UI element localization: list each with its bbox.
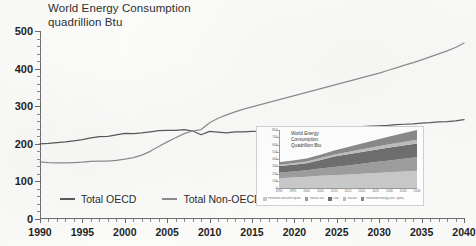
x-tick-minor (286, 219, 287, 222)
x-tick-minor (396, 219, 397, 222)
x-axis-label: 1995 (71, 226, 94, 238)
x-axis-label: 2000 (113, 226, 136, 238)
legend-item[interactable]: Total Non-OECD (162, 193, 261, 205)
x-tick-minor (362, 219, 363, 222)
x-tick-minor (57, 219, 58, 222)
x-tick-minor (413, 219, 414, 222)
chart-legend: Total OECDTotal Non-OECD (60, 193, 262, 205)
y-axis-label: 100 (15, 175, 33, 187)
inset-x-label: 2005 (317, 189, 324, 193)
inset-y-label: 600 (272, 143, 277, 147)
inset-x-label: 2025 (372, 189, 379, 193)
x-tick-minor (142, 219, 143, 222)
x-tick-minor (447, 219, 448, 222)
x-tick-minor (456, 219, 457, 222)
x-tick-minor (74, 219, 75, 222)
x-tick-minor (116, 219, 117, 222)
x-tick-minor (320, 219, 321, 222)
y-axis-label: 300 (15, 100, 33, 112)
x-axis-label: 2015 (240, 226, 263, 238)
inset-legend: Petroleum and other liquidsNatural GasCo… (263, 197, 421, 201)
x-tick-minor (159, 219, 160, 222)
y-axis-label: 0 (27, 213, 33, 225)
x-tick-minor (193, 219, 194, 222)
y-axis-label: 400 (15, 63, 33, 75)
inset-y-label: 700 (272, 135, 277, 139)
x-tick-minor (388, 219, 389, 222)
x-tick-minor (354, 219, 355, 222)
x-axis-label: 2040 (452, 226, 475, 238)
inset-legend-swatch (328, 197, 332, 201)
x-tick-minor (260, 219, 261, 222)
x-tick-minor (269, 219, 270, 222)
inset-x-label: 2010 (331, 189, 338, 193)
x-tick-minor (277, 219, 278, 222)
x-tick-minor (303, 219, 304, 222)
inset-legend-item: Nuclear (343, 197, 357, 201)
inset-y-label: 100 (272, 179, 277, 183)
x-tick-minor (133, 219, 134, 222)
x-tick-major (464, 218, 465, 223)
x-axis-label: 2020 (283, 226, 306, 238)
x-tick-minor (201, 219, 202, 222)
inset-legend-swatch (343, 197, 347, 201)
x-axis-label: 2035 (410, 226, 433, 238)
x-tick-minor (150, 219, 151, 222)
inset-x-label: 2035 (400, 189, 407, 193)
x-tick-minor (176, 219, 177, 222)
inset-x-label: 1995 (289, 189, 296, 193)
x-tick-minor (218, 219, 219, 222)
inset-x-label: 2040 (414, 189, 421, 193)
inset-legend-label: Renewable Energy (excl. hydro) (366, 197, 404, 200)
chart-canvas: World Energy Consumption quadrillion Btu… (0, 0, 476, 246)
x-tick-minor (235, 219, 236, 222)
inset-x-label: 1990 (276, 189, 283, 193)
x-tick-minor (405, 219, 406, 222)
x-tick-minor (48, 219, 49, 222)
inset-x-label: 2015 (345, 189, 352, 193)
x-tick-minor (227, 219, 228, 222)
x-tick-minor (108, 219, 109, 222)
x-tick-minor (91, 219, 92, 222)
x-tick-minor (371, 219, 372, 222)
inset-y-label: 200 (272, 172, 277, 176)
inset-x-label: 2020 (358, 189, 365, 193)
inset-legend-label: Coal (333, 197, 339, 200)
x-tick-minor (99, 219, 100, 222)
legend-item[interactable]: Total OECD (60, 193, 136, 205)
chart-title-line1: World Energy Consumption (48, 2, 191, 14)
inset-y-label: 300 (272, 164, 277, 168)
inset-legend-swatch (305, 197, 309, 201)
x-axis-label: 1990 (28, 226, 51, 238)
x-axis-label: 2030 (368, 226, 391, 238)
legend-label: Total Non-OECD (183, 193, 261, 205)
x-tick-minor (184, 219, 185, 222)
x-tick-minor (430, 219, 431, 222)
legend-line-swatch (162, 198, 177, 199)
x-tick-minor (345, 219, 346, 222)
inset-legend-label: Petroleum and other liquids (268, 197, 301, 200)
inset-legend-label: Nuclear (348, 197, 357, 200)
y-axis-label: 500 (15, 25, 33, 37)
x-axis-label: 2025 (325, 226, 348, 238)
inset-y-label: 500 (272, 150, 277, 154)
inset-y-label: 800 (272, 128, 277, 132)
inset-x-label: 2000 (303, 189, 310, 193)
inset-legend-item: Coal (328, 197, 339, 201)
x-axis-label: 2005 (156, 226, 179, 238)
legend-label: Total OECD (81, 193, 136, 205)
inset-chart: World Energy Consumption Quadrillion Btu… (256, 126, 424, 206)
x-tick-minor (439, 219, 440, 222)
inset-legend-swatch (361, 197, 365, 201)
x-tick-minor (311, 219, 312, 222)
x-tick-minor (65, 219, 66, 222)
inset-legend-swatch (263, 197, 267, 201)
inset-y-label: 400 (272, 157, 277, 161)
chart-title: World Energy Consumption quadrillion Btu (48, 2, 191, 29)
inset-legend-label: Natural Gas (310, 197, 324, 200)
y-axis-label: 200 (15, 138, 33, 150)
x-axis-label: 2010 (198, 226, 221, 238)
inset-legend-item: Petroleum and other liquids (263, 197, 301, 201)
x-tick-minor (244, 219, 245, 222)
inset-legend-item: Renewable Energy (excl. hydro) (361, 197, 404, 201)
